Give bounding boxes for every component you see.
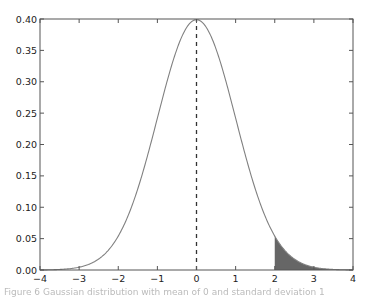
plot-frame [40, 19, 353, 270]
normal-distribution-chart: −4−3−2−101234 0.000.050.100.150.200.250.… [0, 0, 373, 298]
svg-text:−1: −1 [150, 273, 164, 284]
svg-text:0.15: 0.15 [16, 170, 37, 181]
x-axis-ticks: −4−3−2−101234 [33, 19, 356, 284]
svg-text:4: 4 [350, 273, 356, 284]
svg-text:0.00: 0.00 [16, 265, 37, 276]
svg-text:0.10: 0.10 [16, 202, 37, 213]
svg-text:0.20: 0.20 [16, 139, 37, 150]
y-axis-ticks: 0.000.050.100.150.200.250.300.350.40 [16, 14, 353, 276]
figure-caption: Figure 6 Gaussian distribution with mean… [4, 287, 373, 297]
svg-text:−3: −3 [72, 273, 86, 284]
svg-text:0.05: 0.05 [16, 233, 37, 244]
svg-text:0.35: 0.35 [16, 45, 37, 56]
pdf-curve [40, 20, 353, 270]
svg-text:3: 3 [311, 273, 317, 284]
svg-text:0.25: 0.25 [16, 108, 37, 119]
svg-text:2: 2 [272, 273, 278, 284]
svg-text:0: 0 [193, 273, 199, 284]
svg-text:−2: −2 [111, 273, 125, 284]
svg-text:1: 1 [233, 273, 239, 284]
svg-text:0.40: 0.40 [16, 14, 37, 25]
tail-shaded-area [275, 236, 353, 270]
svg-text:0.30: 0.30 [16, 76, 37, 87]
